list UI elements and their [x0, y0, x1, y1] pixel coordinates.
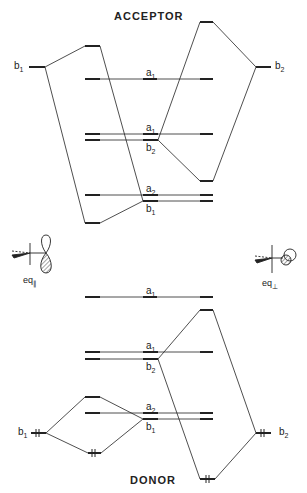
donor-levels — [31, 297, 271, 479]
eq-parallel-label: eq∥ — [23, 276, 37, 285]
acceptor-title: ACCEPTOR — [114, 10, 184, 22]
donor-correlation-lines — [46, 297, 256, 479]
acceptor-left-fragment-label: b1 — [14, 61, 23, 71]
eq-perpendicular-label: eq⊥ — [262, 279, 278, 288]
acceptor-right-fragment-label: b2 — [275, 61, 284, 71]
donor-a2-label: a2 — [146, 402, 155, 412]
eq-perpendicular-orbital-icon — [255, 245, 296, 273]
acceptor-b2-label: b2 — [146, 143, 155, 153]
donor-a1-label: a1 — [146, 341, 155, 351]
acceptor-a1-upper-label: a1 — [146, 68, 155, 78]
donor-b1-label: b1 — [146, 422, 155, 432]
acceptor-a2-label: a2 — [146, 184, 155, 194]
acceptor-a1-label: a1 — [146, 123, 155, 133]
donor-right-fragment-label: b2 — [279, 427, 288, 437]
acceptor-b1-label: b1 — [146, 204, 155, 214]
eq-parallel-orbital-icon — [12, 235, 51, 273]
donor-a1-upper-label: a1 — [146, 286, 155, 296]
donor-b2-label: b2 — [146, 362, 155, 372]
donor-left-fragment-label: b1 — [18, 427, 27, 437]
donor-title: DONOR — [130, 474, 176, 486]
